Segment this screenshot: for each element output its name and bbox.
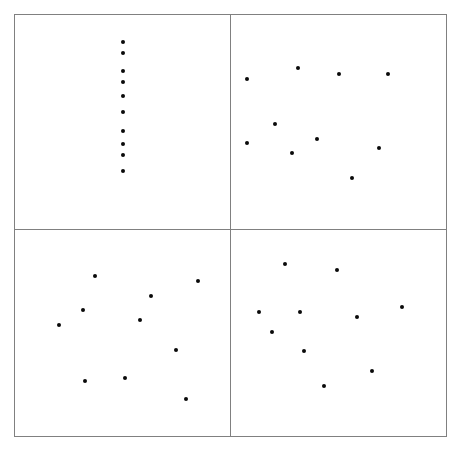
scatter-point [184, 397, 188, 401]
scatter-point [93, 274, 97, 278]
scatter-point [245, 77, 249, 81]
scatter-point [370, 369, 374, 373]
scatter-point [121, 153, 125, 157]
scatter-point [337, 72, 341, 76]
scatter-point [273, 122, 277, 126]
scatter-point [245, 141, 249, 145]
scatter-point [302, 349, 306, 353]
scatter-point [81, 308, 85, 312]
scatter-point [121, 69, 125, 73]
scatter-point [290, 151, 294, 155]
scatter-point [298, 310, 302, 314]
plot-area-bottom-right[interactable] [231, 230, 446, 436]
scatter-point [83, 379, 87, 383]
scatter-point [121, 94, 125, 98]
panel-grid [14, 14, 447, 437]
scatter-point [149, 294, 153, 298]
scatter-point [121, 129, 125, 133]
plot-area-top-left[interactable] [15, 15, 230, 229]
scatter-point [355, 315, 359, 319]
scatter-point [377, 146, 381, 150]
scatter-point [350, 176, 354, 180]
scatter-point [322, 384, 326, 388]
scatter-point [315, 137, 319, 141]
scatter-point [121, 142, 125, 146]
scatter-point [174, 348, 178, 352]
plot-area-bottom-left[interactable] [15, 230, 230, 436]
panel-top-right[interactable] [230, 14, 447, 230]
panel-bottom-right[interactable] [230, 229, 447, 437]
figure-canvas [0, 0, 462, 449]
scatter-point [138, 318, 142, 322]
scatter-point [257, 310, 261, 314]
scatter-point [400, 305, 404, 309]
scatter-point [121, 169, 125, 173]
plot-area-top-right[interactable] [231, 15, 446, 229]
scatter-point [121, 80, 125, 84]
scatter-point [196, 279, 200, 283]
scatter-point [270, 330, 274, 334]
scatter-point [386, 72, 390, 76]
scatter-point [121, 40, 125, 44]
scatter-point [296, 66, 300, 70]
scatter-point [121, 51, 125, 55]
scatter-point [283, 262, 287, 266]
panel-bottom-left[interactable] [14, 229, 231, 437]
scatter-point [335, 268, 339, 272]
scatter-point [57, 323, 61, 327]
scatter-point [121, 110, 125, 114]
panel-top-left[interactable] [14, 14, 231, 230]
scatter-point [123, 376, 127, 380]
